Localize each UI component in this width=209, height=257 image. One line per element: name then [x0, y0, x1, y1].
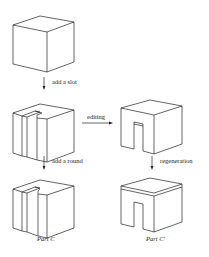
arrow-down-add-round — [43, 156, 46, 170]
part-c-prime-label: Part C' — [146, 236, 165, 243]
arrow-down-add-slot — [43, 77, 46, 90]
part-c-prime-block — [121, 178, 182, 232]
step-label-add-round: add a round — [52, 158, 83, 165]
step-label-editing: editing — [87, 114, 105, 121]
edited-block — [121, 100, 182, 154]
initial-block — [13, 16, 74, 72]
part-c-block — [13, 180, 74, 238]
arrow-down-regeneration — [151, 156, 154, 170]
slotted-block — [13, 104, 74, 162]
step-label-add-slot: add a slot — [52, 79, 77, 86]
part-c-label: Part C — [37, 236, 55, 243]
feature-editing-diagram — [0, 0, 209, 257]
step-label-regeneration: regeneration — [160, 158, 192, 165]
arrow-right-editing — [82, 122, 113, 125]
